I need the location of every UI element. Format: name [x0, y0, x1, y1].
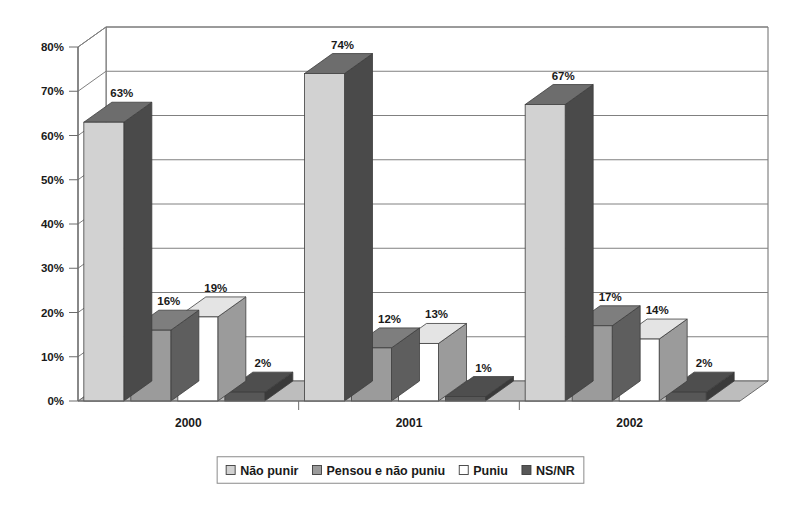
y-axis-tick-label: 70%: [41, 85, 64, 97]
bar-value-label: 17%: [599, 291, 622, 303]
grouped-bar-chart-3d: 0%10%20%30%40%50%60%70%80% 200020012002 …: [0, 0, 801, 506]
legend-swatch: [226, 466, 235, 475]
legend-label: Puniu: [473, 464, 508, 478]
legend-swatch: [312, 466, 321, 475]
bar-value-label: 16%: [157, 295, 180, 307]
legend-swatch: [522, 466, 531, 475]
legend-label: Não punir: [240, 464, 298, 478]
bar-front-face: [305, 74, 345, 401]
chart-legend: Não punirPensou e não puniuPuniuNS/NR: [217, 457, 584, 484]
legend-label: NS/NR: [536, 464, 575, 478]
bar-value-label: 14%: [646, 304, 669, 316]
y-axis-tick-label: 40%: [41, 218, 64, 230]
bar-value-label: 63%: [110, 87, 133, 99]
x-axis-category-label: 2001: [396, 416, 423, 430]
bar-value-label: 1%: [475, 362, 492, 374]
y-axis-tick-label: 30%: [41, 262, 64, 274]
bar-value-label: 74%: [331, 39, 354, 51]
bar-2001-não-punir: [305, 54, 373, 401]
bar-value-label: 67%: [552, 70, 575, 82]
legend-label: Pensou e não puniu: [326, 464, 445, 478]
bar-value-label: 13%: [425, 308, 448, 320]
legend-swatch: [459, 466, 468, 475]
bar-side-face: [565, 85, 593, 401]
legend-item-pensou-e-n-o-puniu[interactable]: Pensou e não puniu: [312, 464, 445, 478]
y-axis-tick-label: 60%: [41, 130, 64, 142]
y-axis-tick-label: 20%: [41, 307, 64, 319]
bar-value-label: 2%: [255, 357, 272, 369]
x-axis-category-label: 2000: [175, 416, 202, 430]
bar-front-face: [446, 397, 486, 401]
bar-front-face: [525, 105, 565, 401]
bar-side-face: [124, 102, 152, 401]
y-axis-tick-label: 10%: [41, 351, 64, 363]
y-axis-tick-labels: 0%10%20%30%40%50%60%70%80%: [41, 41, 64, 407]
chart-container: 0%10%20%30%40%50%60%70%80% 200020012002 …: [0, 0, 801, 506]
bar-front-face: [225, 392, 265, 401]
bar-value-label: 2%: [696, 357, 713, 369]
y-axis-tick-label: 0%: [47, 395, 64, 407]
bar-value-label: 12%: [378, 313, 401, 325]
y-axis-tick-label: 80%: [41, 41, 64, 53]
bar-2000-não-punir: [84, 102, 152, 401]
bar-front-face: [666, 392, 706, 401]
bar-front-face: [84, 122, 124, 401]
bar-value-label: 19%: [204, 282, 227, 294]
x-axis-category-label: 2002: [616, 416, 643, 430]
bar-2002-não-punir: [525, 85, 593, 401]
y-axis-tick-label: 50%: [41, 174, 64, 186]
bar-side-face: [345, 54, 373, 401]
